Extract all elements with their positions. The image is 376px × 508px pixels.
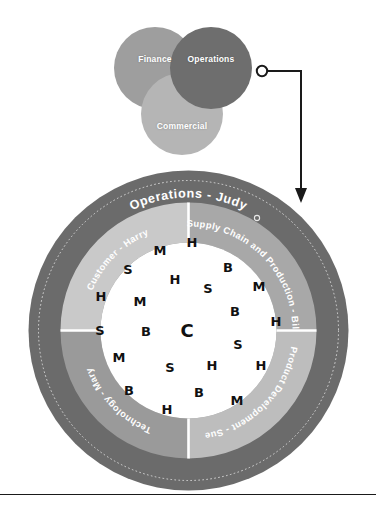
bottom-divider — [0, 494, 376, 495]
letter-token: H — [170, 273, 181, 286]
letter-token: B — [124, 384, 134, 397]
letter-token: H — [96, 290, 107, 303]
letter-token: M — [154, 244, 167, 257]
letter-token: C — [180, 322, 193, 340]
venn-label-operations: Operations — [188, 54, 235, 64]
letter-token: H — [207, 359, 218, 372]
diagram-canvas: Finance Commercial Operations — [0, 0, 376, 508]
letter-token: M — [231, 394, 244, 407]
letter-cloud: MHSBHSHMMBHSBCSMSHHBBMH — [0, 0, 376, 508]
letter-token: B — [230, 305, 240, 318]
letter-token: S — [165, 361, 174, 374]
letter-token: S — [203, 282, 212, 295]
letter-token: B — [194, 386, 204, 399]
venn-label-commercial: Commercial — [157, 121, 208, 131]
letter-token: H — [256, 359, 267, 372]
letter-token: B — [141, 325, 151, 338]
letter-token: M — [134, 295, 147, 308]
letter-token: S — [123, 263, 132, 276]
letter-token: M — [113, 351, 126, 364]
venn-label-finance: Finance — [138, 54, 172, 64]
letter-token: S — [233, 338, 242, 351]
letter-token: H — [271, 315, 282, 328]
letter-token: B — [223, 261, 233, 274]
letter-token: S — [95, 324, 104, 337]
letter-token: H — [162, 403, 173, 416]
letter-token: H — [187, 236, 198, 249]
letter-token: M — [253, 280, 266, 293]
